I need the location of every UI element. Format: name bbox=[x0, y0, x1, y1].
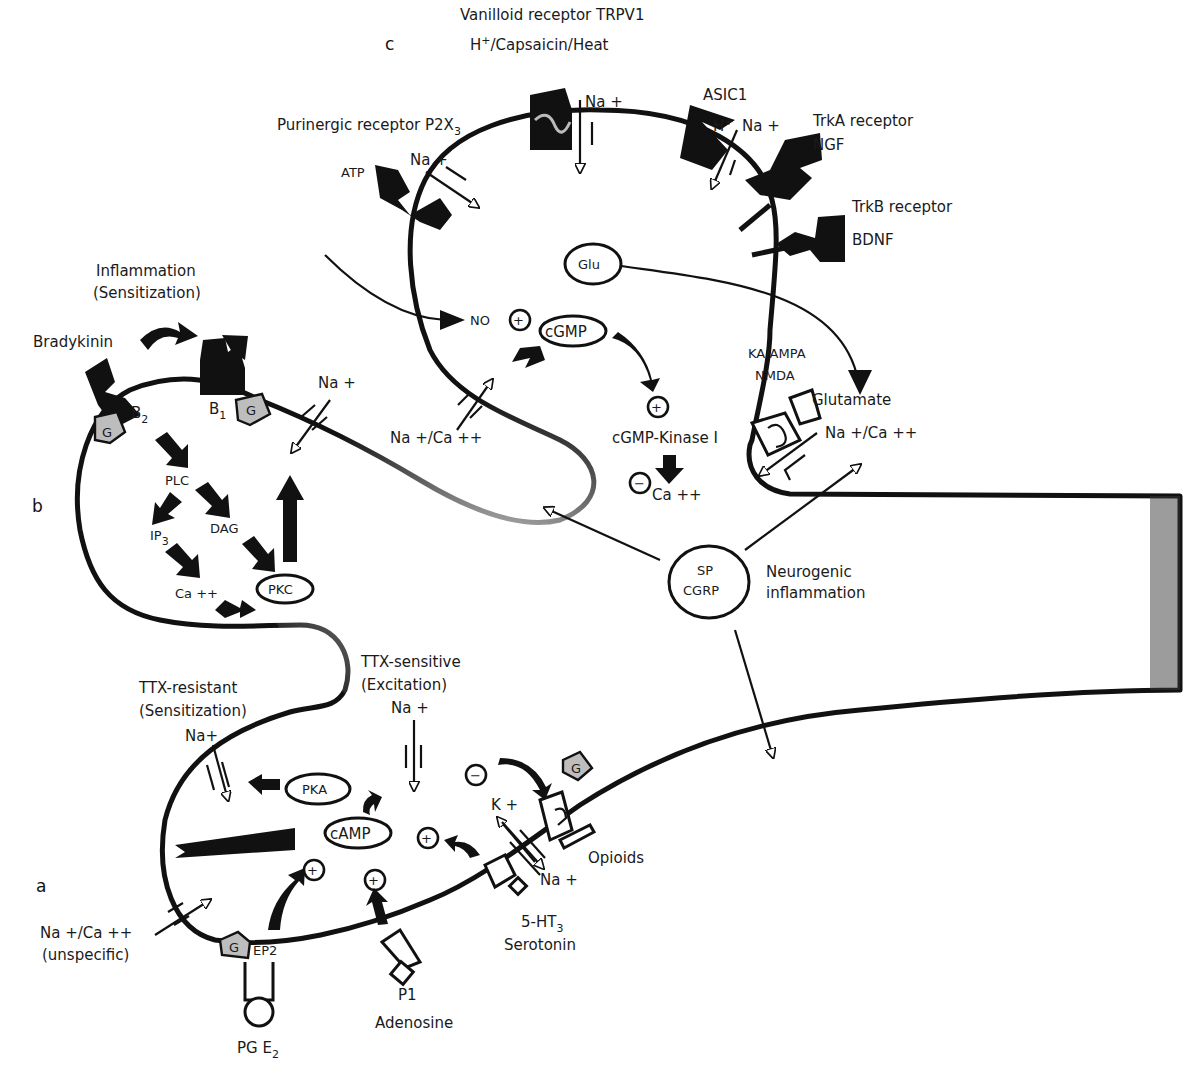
cgmp-to-channel-arrow bbox=[512, 346, 545, 368]
p2x3-ion: Na + bbox=[410, 151, 448, 169]
na-ion-label-a: Na + bbox=[540, 871, 578, 889]
pge2-label: PG E2 bbox=[237, 1039, 279, 1061]
unspecific-ion-label: Na +/Ca ++ bbox=[40, 924, 132, 942]
channel-ion-c: Na +/Ca ++ bbox=[390, 429, 482, 447]
ca-to-pkc-arrow bbox=[215, 600, 256, 618]
trka-receptor bbox=[740, 133, 822, 230]
svg-text:G: G bbox=[246, 403, 256, 418]
ep2-to-plus-arrow bbox=[268, 868, 305, 930]
no-input-arrow bbox=[440, 310, 465, 330]
5ht3-to-plus-arrow bbox=[444, 835, 480, 858]
asic1-title: ASIC1 bbox=[703, 86, 747, 104]
trka-title: TrkA receptor bbox=[812, 112, 914, 130]
inflammation-label: Inflammation bbox=[96, 262, 196, 280]
plc-to-dag-arrow bbox=[195, 482, 230, 518]
panel-label-b: b bbox=[32, 496, 43, 516]
glu-label: Glu bbox=[578, 257, 600, 272]
trpv1-title: Vanilloid receptor TRPV1 bbox=[460, 6, 644, 24]
trka-ligand: NGF bbox=[813, 136, 844, 154]
trpv1-ligand: H+/Capsaicin/Heat bbox=[470, 34, 609, 54]
ttx-resistant-note: (Sensitization) bbox=[139, 702, 247, 720]
ttx-resistant-label: TTX-resistant bbox=[138, 679, 237, 697]
nociceptor-signaling-diagram: c b a Vanilloid receptor TRPV1 H+/Capsai… bbox=[0, 0, 1199, 1071]
plc-to-ip3-arrow bbox=[152, 492, 182, 525]
trpv1-ion: Na + bbox=[585, 93, 623, 111]
svg-text:+: + bbox=[368, 873, 379, 888]
ip3-label: IP3 bbox=[150, 528, 169, 548]
ep2-label: EP2 bbox=[253, 943, 277, 958]
b2-to-plc-arrow bbox=[155, 432, 188, 468]
glutamate-receptor-label: KA/AMPA bbox=[748, 346, 806, 361]
adenosine-label: Adenosine bbox=[375, 1014, 453, 1032]
large-sensitization-arrow bbox=[175, 828, 295, 858]
glutamate-receptor-label-2: NMDA bbox=[755, 368, 795, 383]
trkb-receptor bbox=[752, 215, 845, 262]
pka-label: PKA bbox=[302, 782, 327, 797]
ip3-to-ca-arrow bbox=[165, 543, 200, 578]
neurogenic-inflammation-label: inflammation bbox=[766, 584, 865, 602]
svg-text:G: G bbox=[229, 940, 239, 955]
ttx-sensitive-label: TTX-sensitive bbox=[360, 653, 461, 671]
pka-to-channel-arrow bbox=[248, 774, 280, 795]
k-ion-label: K + bbox=[491, 796, 518, 814]
svg-text:−: − bbox=[634, 476, 645, 491]
svg-text:+: + bbox=[513, 313, 524, 328]
p2x3-title: Purinergic receptor P2X3 bbox=[277, 116, 461, 138]
panel-label-a: a bbox=[36, 876, 46, 896]
neuron-membrane bbox=[77, 110, 1180, 943]
sensitization-label-b: (Sensitization) bbox=[93, 284, 201, 302]
svg-text:−: − bbox=[470, 768, 481, 783]
cgmp-to-kinase-arrow bbox=[612, 332, 660, 392]
svg-text:+: + bbox=[651, 400, 662, 415]
glutamate-release-arrow bbox=[621, 266, 858, 380]
sp-release-arrow-down bbox=[735, 630, 773, 757]
glutamate-ion-label: Na +/Ca ++ bbox=[825, 424, 917, 442]
svg-text:+: + bbox=[421, 831, 432, 846]
dag-label: DAG bbox=[210, 521, 239, 536]
asic1-ligand: H+ bbox=[713, 115, 734, 135]
trpv1-receptor bbox=[530, 88, 592, 172]
panel-label-c: c bbox=[385, 34, 394, 54]
unspecific-label: (unspecific) bbox=[42, 946, 129, 964]
pkc-label: PKC bbox=[268, 582, 293, 597]
glutamate-label: Glutamate bbox=[812, 391, 891, 409]
glutamate-receptor bbox=[752, 390, 820, 480]
serotonin-label: Serotonin bbox=[504, 936, 576, 954]
svg-text:G: G bbox=[102, 425, 112, 440]
cgrp-label: CGRP bbox=[683, 583, 719, 598]
na-ion-b: Na + bbox=[318, 374, 356, 392]
plc-label: PLC bbox=[165, 473, 189, 488]
asic1-ion: Na + bbox=[742, 117, 780, 135]
opioid-inhibition-arrow bbox=[498, 758, 552, 800]
ttx-resistant-ion: Na+ bbox=[185, 727, 218, 745]
opioids-label: Opioids bbox=[588, 849, 644, 867]
cgmp-kinase-label: cGMP-Kinase I bbox=[612, 429, 718, 447]
cgmp-label: cGMP bbox=[545, 323, 587, 341]
sp-label: SP bbox=[697, 563, 713, 578]
camp-to-pka-arrow bbox=[363, 790, 382, 815]
no-label: NO bbox=[470, 313, 490, 328]
p2x3-ligand: ATP bbox=[341, 165, 365, 180]
svg-text:G: G bbox=[571, 761, 581, 776]
trkb-ligand: BDNF bbox=[852, 231, 894, 249]
svg-text:+: + bbox=[307, 863, 318, 878]
b2-label: B2 bbox=[131, 404, 148, 426]
b1-label: B1 bbox=[209, 400, 226, 422]
neurogenic-label: Neurogenic bbox=[766, 563, 852, 581]
trkb-title: TrkB receptor bbox=[851, 198, 953, 216]
ttx-sensitive-channel bbox=[406, 720, 421, 790]
ca-label-b: Ca ++ bbox=[175, 586, 218, 601]
bradykinin-conversion-arrow bbox=[140, 322, 198, 350]
p1-to-plus-arrow bbox=[366, 888, 388, 925]
camp-label: cAMP bbox=[330, 825, 371, 843]
ttx-sensitive-ion: Na + bbox=[391, 699, 429, 717]
p1-label: P1 bbox=[398, 986, 417, 1004]
ttx-sensitive-note: (Excitation) bbox=[361, 676, 447, 694]
5ht3-k-na-channel bbox=[485, 818, 545, 894]
ca-label-c: Ca ++ bbox=[652, 486, 702, 504]
unspecific-channel bbox=[155, 900, 210, 935]
bradykinin-label: Bradykinin bbox=[33, 333, 113, 351]
p1-receptor bbox=[382, 930, 420, 984]
5ht3-label: 5-HT3 bbox=[521, 913, 563, 935]
